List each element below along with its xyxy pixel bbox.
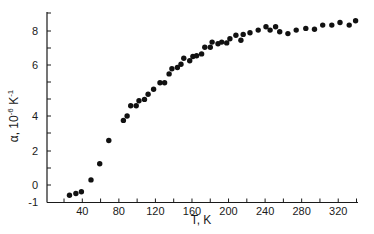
x-tick-label: 320: [329, 205, 347, 217]
data-point: [106, 138, 111, 143]
y-axis: 8 6 4 2 0 -1 α, 10-6 K-1: [6, 12, 51, 208]
x-tick-label: 240: [256, 205, 274, 217]
data-point: [88, 177, 93, 182]
data-point: [166, 71, 171, 76]
data-point: [347, 22, 352, 27]
data-point: [181, 56, 186, 61]
data-point: [227, 36, 232, 41]
y-tick-label-0: 0: [32, 179, 38, 191]
y-tick-label-minus1: -1: [28, 196, 38, 208]
data-point: [121, 118, 126, 123]
data-point: [162, 80, 167, 85]
data-point: [241, 32, 246, 37]
data-point: [294, 27, 299, 32]
y-tick-label-4: 4: [32, 110, 38, 122]
data-point: [312, 27, 317, 32]
y-tick-label-6: 6: [32, 59, 38, 71]
x-tick-label: 80: [113, 205, 125, 217]
data-point: [303, 26, 308, 31]
data-point: [209, 39, 214, 44]
data-point: [97, 161, 102, 166]
y-axis-title-main: α, 10: [7, 115, 21, 142]
data-point: [67, 193, 72, 198]
x-axis-tick-labels: 4080120160200240280320: [76, 205, 347, 217]
data-point: [157, 80, 162, 85]
data-point: [337, 20, 342, 25]
thermal-expansion-chart: 8 6 4 2 0 -1 α, 10-6 K-1 408012016020024…: [0, 0, 374, 234]
y-axis-title: α, 10-6 K-1: [6, 89, 21, 142]
y-axis-title-unit: K: [7, 97, 21, 108]
x-tick-label: 120: [146, 205, 164, 217]
x-tick-label: 40: [76, 205, 88, 217]
data-point: [73, 191, 78, 196]
data-point: [194, 53, 199, 58]
x-tick-label: 200: [219, 205, 237, 217]
x-axis-title: T, K: [191, 213, 212, 227]
y-tick-label-8: 8: [32, 25, 38, 37]
data-point: [145, 92, 150, 97]
data-point: [124, 113, 129, 118]
data-point: [199, 51, 204, 56]
data-point: [142, 97, 147, 102]
data-point: [79, 189, 84, 194]
data-points: [67, 18, 359, 198]
y-tick-label-2: 2: [32, 145, 38, 157]
data-point: [247, 30, 252, 35]
data-point: [136, 98, 141, 103]
y-axis-title-exp2: -1: [6, 89, 15, 97]
data-point: [273, 24, 278, 29]
data-point: [202, 45, 207, 50]
data-point: [128, 103, 133, 108]
data-point: [187, 58, 192, 63]
data-point: [353, 18, 358, 23]
x-axis: 4080120160200240280320 T, K: [47, 199, 358, 228]
x-tick-label: 280: [292, 205, 310, 217]
data-point: [285, 31, 290, 36]
data-point: [208, 45, 213, 50]
data-point: [277, 29, 282, 34]
data-point: [219, 39, 224, 44]
data-point: [169, 66, 174, 71]
data-point: [329, 22, 334, 27]
data-point: [178, 61, 183, 66]
data-point: [320, 22, 325, 27]
data-point: [256, 27, 261, 32]
data-point: [238, 38, 243, 43]
data-point: [134, 103, 139, 108]
data-point: [267, 27, 272, 32]
data-point: [233, 33, 238, 38]
data-point: [151, 87, 156, 92]
